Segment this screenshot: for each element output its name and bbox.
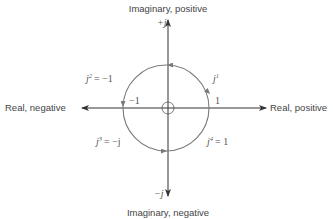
real-negative-label: Real, negative	[5, 102, 66, 113]
svg-text:j2= −1: j2= −1	[84, 72, 113, 84]
real-positive-label: Real, positive	[270, 102, 327, 113]
neg-one-label: −1	[129, 95, 140, 106]
minus-j-label: −j	[154, 188, 164, 199]
one-label: 1	[215, 95, 220, 106]
svg-text:j4= 1: j4= 1	[205, 135, 228, 147]
plus-j-label: +j	[157, 17, 167, 28]
power-j1: j1	[211, 72, 219, 84]
complex-plane-diagram: Imaginary, positive Imaginary, negative …	[0, 0, 333, 219]
svg-text:j3= −j: j3= −j	[94, 135, 121, 147]
imag-negative-label: Imaginary, negative	[127, 207, 209, 218]
power-j2: j2= −1	[84, 72, 113, 84]
svg-text:j1: j1	[211, 72, 219, 84]
power-j3: j3= −j	[94, 135, 121, 147]
imag-positive-label: Imaginary, positive	[129, 3, 208, 14]
power-j4: j4= 1	[205, 135, 228, 147]
